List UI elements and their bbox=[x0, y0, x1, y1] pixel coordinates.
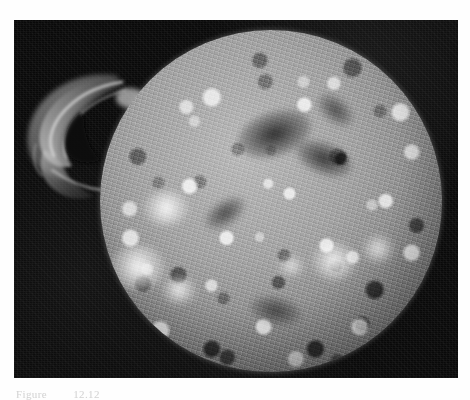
surface-speckle bbox=[100, 30, 442, 372]
figure-page: Figure12.12 bbox=[0, 0, 470, 400]
caption-number: 12.12 bbox=[73, 388, 100, 400]
photo-frame bbox=[14, 20, 458, 378]
solar-disk bbox=[100, 30, 442, 372]
caption-label: Figure bbox=[16, 388, 47, 400]
figure-caption: Figure12.12 bbox=[16, 388, 100, 400]
solar-photosphere bbox=[100, 30, 442, 372]
